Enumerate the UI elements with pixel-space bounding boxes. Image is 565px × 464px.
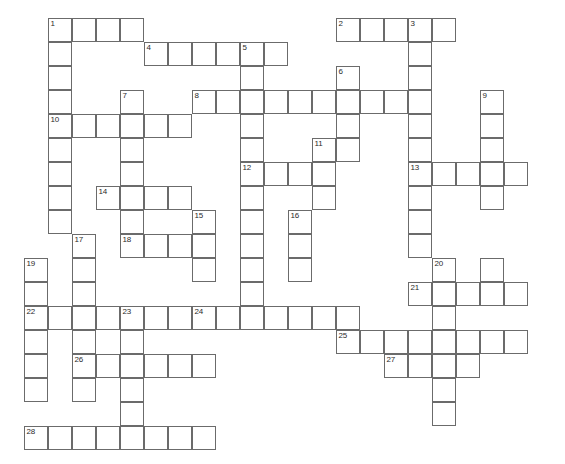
- crossword-cell[interactable]: [120, 354, 144, 378]
- crossword-cell[interactable]: [264, 162, 288, 186]
- crossword-cell[interactable]: [192, 234, 216, 258]
- crossword-cell[interactable]: 27: [384, 354, 408, 378]
- crossword-cell[interactable]: [336, 114, 360, 138]
- crossword-cell[interactable]: [408, 354, 432, 378]
- crossword-cell[interactable]: [480, 258, 504, 282]
- crossword-cell[interactable]: 18: [120, 234, 144, 258]
- crossword-cell[interactable]: [312, 186, 336, 210]
- crossword-cell[interactable]: 16: [288, 210, 312, 234]
- crossword-cell[interactable]: 5: [240, 42, 264, 66]
- crossword-cell[interactable]: [408, 66, 432, 90]
- crossword-cell[interactable]: [288, 234, 312, 258]
- crossword-cell[interactable]: 2: [336, 18, 360, 42]
- crossword-cell[interactable]: 14: [96, 186, 120, 210]
- crossword-cell[interactable]: [144, 234, 168, 258]
- crossword-cell[interactable]: [144, 306, 168, 330]
- crossword-cell[interactable]: [288, 306, 312, 330]
- crossword-cell[interactable]: [120, 18, 144, 42]
- crossword-cell[interactable]: [480, 330, 504, 354]
- crossword-cell[interactable]: [288, 162, 312, 186]
- crossword-cell[interactable]: [48, 138, 72, 162]
- crossword-cell[interactable]: [456, 330, 480, 354]
- crossword-cell[interactable]: [408, 138, 432, 162]
- crossword-cell[interactable]: [240, 210, 264, 234]
- crossword-cell[interactable]: [408, 114, 432, 138]
- crossword-cell[interactable]: [312, 162, 336, 186]
- crossword-cell[interactable]: [168, 42, 192, 66]
- crossword-cell[interactable]: 17: [72, 234, 96, 258]
- crossword-cell[interactable]: [480, 138, 504, 162]
- crossword-cell[interactable]: [144, 186, 168, 210]
- crossword-cell[interactable]: [144, 114, 168, 138]
- crossword-cell[interactable]: [48, 186, 72, 210]
- crossword-cell[interactable]: [240, 258, 264, 282]
- crossword-cell[interactable]: [96, 18, 120, 42]
- crossword-cell[interactable]: [240, 234, 264, 258]
- crossword-cell[interactable]: 1: [48, 18, 72, 42]
- crossword-cell[interactable]: [168, 306, 192, 330]
- crossword-cell[interactable]: [168, 114, 192, 138]
- crossword-cell[interactable]: [312, 306, 336, 330]
- crossword-cell[interactable]: 3: [408, 18, 432, 42]
- crossword-cell[interactable]: 20: [432, 258, 456, 282]
- crossword-cell[interactable]: [72, 330, 96, 354]
- crossword-cell[interactable]: 6: [336, 66, 360, 90]
- crossword-cell[interactable]: [504, 162, 528, 186]
- crossword-cell[interactable]: 23: [120, 306, 144, 330]
- crossword-grid[interactable]: 1234567891011121314151617181920212223242…: [0, 0, 565, 464]
- crossword-cell[interactable]: [456, 282, 480, 306]
- crossword-cell[interactable]: [432, 354, 456, 378]
- crossword-cell[interactable]: [192, 354, 216, 378]
- crossword-cell[interactable]: [48, 162, 72, 186]
- crossword-cell[interactable]: [72, 378, 96, 402]
- crossword-cell[interactable]: [480, 282, 504, 306]
- crossword-cell[interactable]: [456, 354, 480, 378]
- crossword-cell[interactable]: [408, 90, 432, 114]
- crossword-cell[interactable]: [504, 330, 528, 354]
- crossword-cell[interactable]: [480, 186, 504, 210]
- crossword-cell[interactable]: [168, 234, 192, 258]
- crossword-cell[interactable]: 21: [408, 282, 432, 306]
- crossword-cell[interactable]: [456, 162, 480, 186]
- crossword-cell[interactable]: [72, 282, 96, 306]
- crossword-cell[interactable]: [72, 18, 96, 42]
- crossword-cell[interactable]: [240, 114, 264, 138]
- crossword-cell[interactable]: [360, 18, 384, 42]
- crossword-cell[interactable]: [120, 162, 144, 186]
- crossword-cell[interactable]: 4: [144, 42, 168, 66]
- crossword-cell[interactable]: [192, 42, 216, 66]
- crossword-cell[interactable]: [120, 138, 144, 162]
- crossword-cell[interactable]: [24, 330, 48, 354]
- crossword-cell[interactable]: [336, 138, 360, 162]
- crossword-cell[interactable]: [96, 114, 120, 138]
- crossword-cell[interactable]: [384, 330, 408, 354]
- crossword-cell[interactable]: [432, 162, 456, 186]
- crossword-cell[interactable]: [120, 378, 144, 402]
- crossword-cell[interactable]: [96, 426, 120, 450]
- crossword-cell[interactable]: [120, 426, 144, 450]
- crossword-cell[interactable]: [96, 306, 120, 330]
- crossword-cell[interactable]: [264, 306, 288, 330]
- crossword-cell[interactable]: [360, 90, 384, 114]
- crossword-cell[interactable]: [384, 18, 408, 42]
- crossword-cell[interactable]: [480, 114, 504, 138]
- crossword-cell[interactable]: [432, 402, 456, 426]
- crossword-cell[interactable]: [120, 114, 144, 138]
- crossword-cell[interactable]: [408, 186, 432, 210]
- crossword-cell[interactable]: [384, 90, 408, 114]
- crossword-cell[interactable]: 9: [480, 90, 504, 114]
- crossword-cell[interactable]: [168, 426, 192, 450]
- crossword-cell[interactable]: [72, 306, 96, 330]
- crossword-cell[interactable]: [120, 186, 144, 210]
- crossword-cell[interactable]: 24: [192, 306, 216, 330]
- crossword-cell[interactable]: [24, 282, 48, 306]
- crossword-cell[interactable]: [24, 354, 48, 378]
- crossword-cell[interactable]: [192, 426, 216, 450]
- crossword-cell[interactable]: [120, 402, 144, 426]
- crossword-cell[interactable]: [504, 282, 528, 306]
- crossword-cell[interactable]: [48, 42, 72, 66]
- crossword-cell[interactable]: [240, 66, 264, 90]
- crossword-cell[interactable]: [120, 330, 144, 354]
- crossword-cell[interactable]: [312, 90, 336, 114]
- crossword-cell[interactable]: 11: [312, 138, 336, 162]
